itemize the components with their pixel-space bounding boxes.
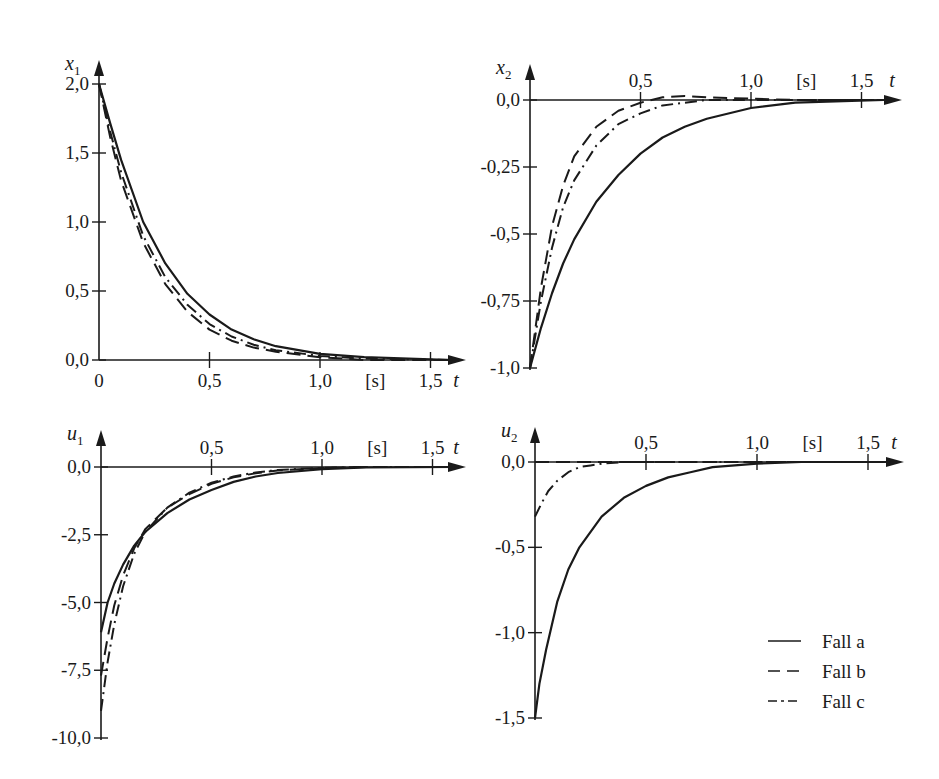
legend-item-label: Fall a xyxy=(822,631,865,652)
x-axis-label: t xyxy=(889,69,895,91)
y-tick-label: 0,0 xyxy=(67,456,91,477)
x-tick-label: 1,5 xyxy=(856,432,880,453)
x-axis-label: t xyxy=(891,431,897,453)
y-axis-arrow-icon xyxy=(94,60,104,76)
series-fall-b xyxy=(530,96,884,368)
y-tick-label: -0,25 xyxy=(480,156,520,177)
x-tick-label: 0,5 xyxy=(634,432,658,453)
y-axis-label: u2 xyxy=(501,419,518,445)
panel-top-right: 0,0-0,25-0,5-0,75-1,00,51,01,5[s]tx2 xyxy=(480,56,902,378)
x-tick-label: 1,0 xyxy=(310,437,334,458)
y-tick-label: -10,0 xyxy=(51,727,91,748)
legend: Fall aFall bFall c xyxy=(768,631,866,712)
series-fall-a xyxy=(99,84,453,360)
y-tick-label: 0,0 xyxy=(501,451,525,472)
y-tick-label: 1,0 xyxy=(65,211,89,232)
y-axis-arrow-icon xyxy=(96,430,106,446)
x-tick-label: 1,0 xyxy=(308,370,332,391)
x-tick-label: 1,0 xyxy=(739,70,763,91)
series-fall-b xyxy=(99,84,453,360)
x-unit-label: [s] xyxy=(802,432,822,453)
x-tick-label: 1,5 xyxy=(421,437,445,458)
x-unit-label: [s] xyxy=(367,437,387,458)
y-tick-label: -1,0 xyxy=(495,622,525,643)
series-fall-a xyxy=(101,467,455,632)
x-tick-label: 1,5 xyxy=(419,370,443,391)
plot-canvas: 0,00,51,01,52,000,51,01,5[s]tx10,0-0,25-… xyxy=(0,0,939,779)
x-unit-label: [s] xyxy=(365,370,385,391)
y-tick-label: 1,5 xyxy=(65,142,89,163)
series-fall-b xyxy=(101,467,455,676)
y-axis-label: u1 xyxy=(67,422,84,448)
x-tick-label: 0,5 xyxy=(629,70,653,91)
y-axis-arrow-icon xyxy=(530,427,540,443)
series-fall-c xyxy=(530,100,884,368)
y-tick-label: -0,5 xyxy=(490,223,520,244)
panel-top-left: 0,00,51,01,52,000,51,01,5[s]tx1 xyxy=(64,52,466,391)
x-axis-label: t xyxy=(453,369,459,391)
x-tick-label: 1,5 xyxy=(850,70,874,91)
y-axis-label: x2 xyxy=(495,56,511,82)
y-tick-label: 0,5 xyxy=(65,280,89,301)
y-tick-label: -1,0 xyxy=(490,357,520,378)
y-tick-label: -0,5 xyxy=(495,536,525,557)
y-tick-label: -5,0 xyxy=(61,592,91,613)
panel-bottom-left: 0,0-2,5-5,0-7,5-10,00,51,01,5[s]tu1 xyxy=(51,422,466,748)
x-tick-label: 0,5 xyxy=(200,437,224,458)
series-fall-c xyxy=(535,462,890,517)
x-tick-label: 0,5 xyxy=(198,370,222,391)
y-tick-label: 0,0 xyxy=(496,89,520,110)
y-tick-label: 0,0 xyxy=(65,349,89,370)
y-tick-label: -1,5 xyxy=(495,707,525,728)
series-fall-c xyxy=(99,84,453,360)
x-tick-label: 1,0 xyxy=(745,432,769,453)
y-tick-label: -7,5 xyxy=(61,659,91,680)
x-axis-label: t xyxy=(453,436,459,458)
figure: 0,00,51,01,52,000,51,01,5[s]tx10,0-0,25-… xyxy=(0,0,939,779)
series-fall-a xyxy=(530,100,884,368)
x-axis-arrow-icon xyxy=(884,95,902,105)
legend-item-label: Fall b xyxy=(822,661,866,682)
x-tick-label: 0 xyxy=(94,370,104,391)
y-tick-label: -2,5 xyxy=(61,524,91,545)
x-unit-label: [s] xyxy=(796,70,816,91)
legend-item-label: Fall c xyxy=(822,691,865,712)
series-fall-c xyxy=(101,467,455,711)
y-axis-arrow-icon xyxy=(525,64,535,80)
y-tick-label: -0,75 xyxy=(480,290,520,311)
